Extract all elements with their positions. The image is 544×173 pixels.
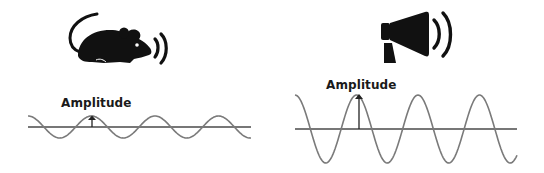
mouse-squeak-icon xyxy=(70,14,166,63)
amplitude-label: Amplitude xyxy=(61,96,132,110)
amplitude-label: Amplitude xyxy=(326,78,397,92)
megaphone-icon xyxy=(381,12,451,63)
quiet-sound-graphic xyxy=(0,0,272,173)
quiet-sound-panel: Amplitude xyxy=(0,0,272,173)
loud-sound-graphic xyxy=(272,0,544,173)
loud-sound-panel: Amplitude xyxy=(272,0,544,173)
